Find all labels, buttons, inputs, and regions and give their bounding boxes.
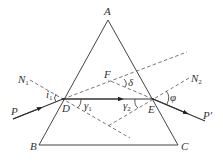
normal-n2-line	[108, 78, 189, 126]
label-d: D	[62, 103, 70, 114]
label-p: P	[11, 106, 18, 117]
angle-phi-arc	[166, 91, 169, 104]
label-n2: N2	[191, 73, 202, 86]
label-f: F	[104, 69, 111, 80]
label-n2-sub: 2	[198, 78, 202, 86]
label-gamma1: γ1	[84, 100, 92, 113]
label-gamma2-sub: 2	[127, 105, 131, 113]
label-b: B	[30, 141, 37, 152]
label-a: A	[104, 6, 111, 17]
label-phi: φ	[170, 92, 176, 103]
label-i1: i1	[46, 89, 53, 102]
label-e: E	[148, 104, 155, 115]
prism-side-ab	[39, 20, 108, 145]
label-p-prime: P′	[203, 110, 212, 121]
angle-delta-arc	[124, 79, 126, 87]
prism-refraction-diagram: A B C D E F P P′ N1 N2 i1 γ1 γ2 δ φ	[0, 0, 223, 165]
label-i1-sub: 1	[49, 94, 53, 102]
point-e-dot	[152, 98, 154, 100]
normal-n1-line	[30, 80, 130, 138]
point-d-dot	[62, 98, 64, 100]
incident-ray-extension	[63, 52, 187, 99]
prism-side-ac	[108, 20, 178, 145]
angle-i1-arc	[55, 94, 57, 102]
label-n1-sub: 1	[25, 79, 29, 87]
label-delta: δ	[128, 77, 133, 88]
angle-gamma2-arc	[135, 99, 138, 108]
label-gamma1-sub: 1	[88, 105, 92, 113]
label-c: C	[181, 141, 188, 152]
label-gamma2: γ2	[123, 100, 131, 113]
label-n1: N1	[18, 74, 29, 87]
angle-gamma1-arc	[77, 99, 81, 108]
